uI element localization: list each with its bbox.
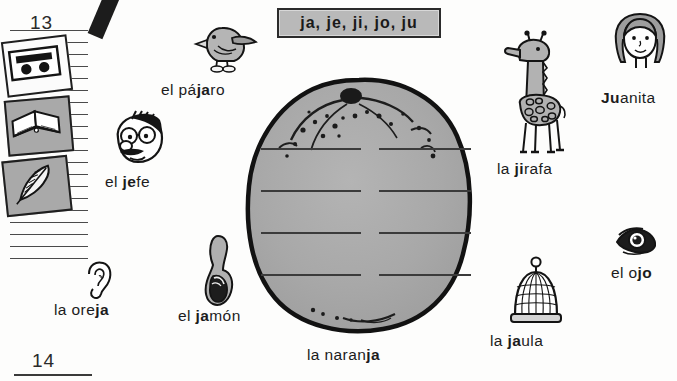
black-diagonal-mark	[88, 0, 121, 39]
label-oreja: la oreja	[54, 301, 109, 319]
worksheet-page: ja, je, ji, jo, ju 13 14	[0, 0, 677, 381]
boss-face-icon	[100, 108, 174, 174]
feather-quill-icon	[7, 191, 66, 214]
label-jirafa: la jirafa	[497, 160, 552, 178]
writing-line	[379, 190, 471, 192]
birdcage-icon	[505, 255, 567, 331]
writing-line	[261, 190, 361, 192]
writing-line	[379, 232, 471, 234]
writing-line	[379, 148, 471, 150]
label-ojo: el ojo	[611, 264, 652, 282]
bird-icon	[188, 16, 260, 78]
writing-line	[261, 274, 361, 276]
label-juanita: Juanita	[601, 89, 656, 107]
label-pajaro: el pájaro	[161, 81, 225, 99]
writing-line	[261, 148, 361, 150]
orange-writing-area	[243, 74, 475, 336]
page-number-bottom: 14	[32, 350, 55, 372]
eye-icon	[613, 225, 659, 261]
sidebar-card-feather	[1, 155, 72, 218]
open-book-icon	[9, 132, 68, 154]
ear-icon	[78, 258, 118, 306]
sidebar	[0, 26, 92, 276]
syllable-header-box: ja, je, ji, jo, ju	[277, 8, 441, 38]
ham-icon	[198, 232, 242, 314]
sidebar-card-cassette	[1, 34, 73, 98]
label-naranja: la naranja	[307, 346, 380, 364]
sidebar-card-book	[4, 95, 75, 157]
cassette-tape-icon	[7, 71, 67, 95]
writing-line	[261, 232, 361, 234]
label-jamon: el jamón	[178, 307, 241, 325]
footer-rule	[14, 374, 92, 376]
girl-face-icon	[608, 10, 672, 80]
writing-line	[379, 274, 471, 276]
giraffe-icon	[496, 28, 570, 160]
label-jaula: la jaula	[490, 332, 543, 350]
writing-lines	[243, 74, 475, 336]
label-jefe: el jefe	[105, 173, 150, 191]
syllable-header-text: ja, je, ji, jo, ju	[300, 14, 418, 32]
